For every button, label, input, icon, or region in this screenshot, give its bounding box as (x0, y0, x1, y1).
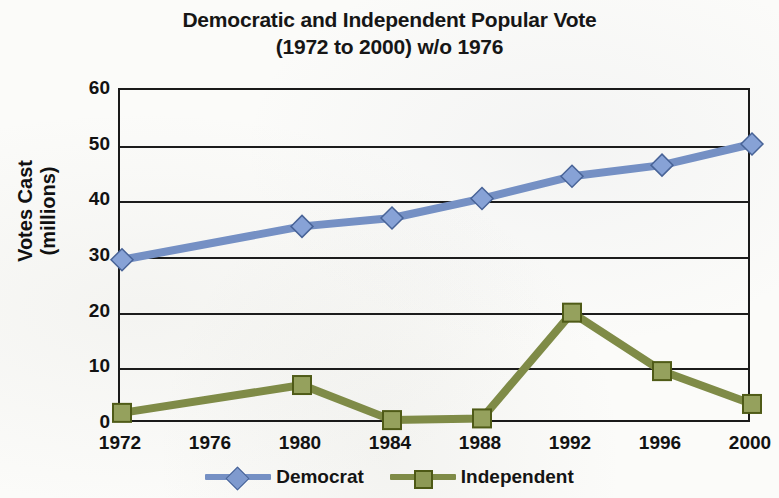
y-axis-title-line-1: Votes Cast (14, 101, 37, 321)
data-point-independent (383, 411, 401, 429)
y-tick-label-0: 0 (64, 411, 110, 433)
y-tick-label-50: 50 (64, 133, 110, 155)
x-tick-label-1972: 1972 (75, 432, 165, 454)
data-point-independent (653, 362, 671, 380)
series-layer (120, 90, 752, 424)
data-point-democrat (111, 249, 133, 271)
legend-label-independent: Independent (461, 466, 574, 488)
x-tick-label-1988: 1988 (435, 432, 525, 454)
y-tick-label-10: 10 (64, 355, 110, 377)
chart-figure: Democratic and Independent Popular Vote … (0, 0, 779, 498)
data-point-democrat (561, 165, 583, 187)
y-axis-title: Votes Cast (millions) (14, 101, 60, 321)
series-democrat (111, 133, 763, 271)
x-tick-label-1996: 1996 (615, 432, 705, 454)
series-independent (113, 304, 761, 429)
y-tick-label-30: 30 (64, 244, 110, 266)
chart-title-line-2: (1972 to 2000) w/o 1976 (0, 33, 779, 60)
x-tick-label-2000: 2000 (705, 432, 779, 454)
chart-legend: DemocratIndependent (0, 466, 779, 488)
legend-entry-independent[interactable]: Independent (390, 466, 574, 488)
data-point-independent (743, 395, 761, 413)
x-tick-label-1976: 1976 (165, 432, 255, 454)
legend-entry-democrat[interactable]: Democrat (205, 466, 364, 488)
legend-swatch-democrat (205, 468, 271, 486)
data-point-democrat (291, 215, 313, 237)
chart-title-line-1: Democratic and Independent Popular Vote (0, 6, 779, 33)
x-tick-label-1980: 1980 (255, 432, 345, 454)
data-point-independent (473, 409, 491, 427)
data-point-democrat (471, 188, 493, 210)
y-tick-label-60: 60 (64, 77, 110, 99)
plot-area (118, 88, 750, 422)
data-point-democrat (741, 133, 763, 155)
y-tick-label-40: 40 (64, 188, 110, 210)
legend-diamond-icon (226, 466, 250, 490)
chart-title: Democratic and Independent Popular Vote … (0, 6, 779, 60)
data-point-democrat (651, 154, 673, 176)
legend-label-democrat: Democrat (276, 466, 364, 488)
y-axis-tick-labels: 0102030405060 (56, 88, 110, 422)
data-point-independent (293, 376, 311, 394)
x-tick-label-1984: 1984 (345, 432, 435, 454)
legend-swatch-independent (390, 468, 456, 486)
x-tick-label-1992: 1992 (525, 432, 615, 454)
y-tick-label-20: 20 (64, 300, 110, 322)
data-point-independent (113, 404, 131, 422)
x-axis-tick-labels: 19721976198019841988199219962000 (0, 432, 779, 460)
legend-square-icon (414, 470, 433, 489)
data-point-democrat (381, 207, 403, 229)
data-point-independent (563, 304, 581, 322)
